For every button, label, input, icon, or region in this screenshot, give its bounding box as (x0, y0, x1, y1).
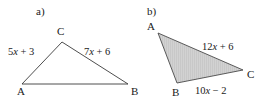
side-label-a-AC: 5x + 3 (8, 47, 34, 58)
side-label-a-CB: 7x + 6 (84, 47, 110, 58)
vertex-label-b-C: C (247, 69, 254, 80)
side-label-b-BC-constant: − 2 (210, 85, 226, 96)
vertex-label-a-C: C (57, 26, 64, 37)
vertex-label-a-B: B (131, 86, 138, 97)
part-label-b: b) (147, 6, 156, 17)
side-label-a-AC-constant: + 3 (18, 46, 34, 57)
side-label-b-AC-coefficient: 12 (202, 41, 213, 52)
vertex-label-b-A: A (147, 21, 155, 32)
vertex-label-b-B: B (172, 87, 179, 98)
side-label-b-BC-coefficient: 10 (195, 85, 206, 96)
side-label-a-CB-constant: + 6 (94, 46, 110, 57)
vertex-label-a-A: A (17, 86, 25, 97)
part-label-a: a) (36, 6, 45, 17)
side-label-b-AC: 12x + 6 (202, 42, 234, 53)
side-label-b-AC-constant: + 6 (217, 41, 233, 52)
triangle-a-outline (22, 42, 128, 84)
side-label-b-BC: 10x − 2 (195, 86, 227, 97)
figure-sheet: a) C A B 5x + 3 7x + 6 b) A B C 12x + 6 … (0, 0, 263, 103)
